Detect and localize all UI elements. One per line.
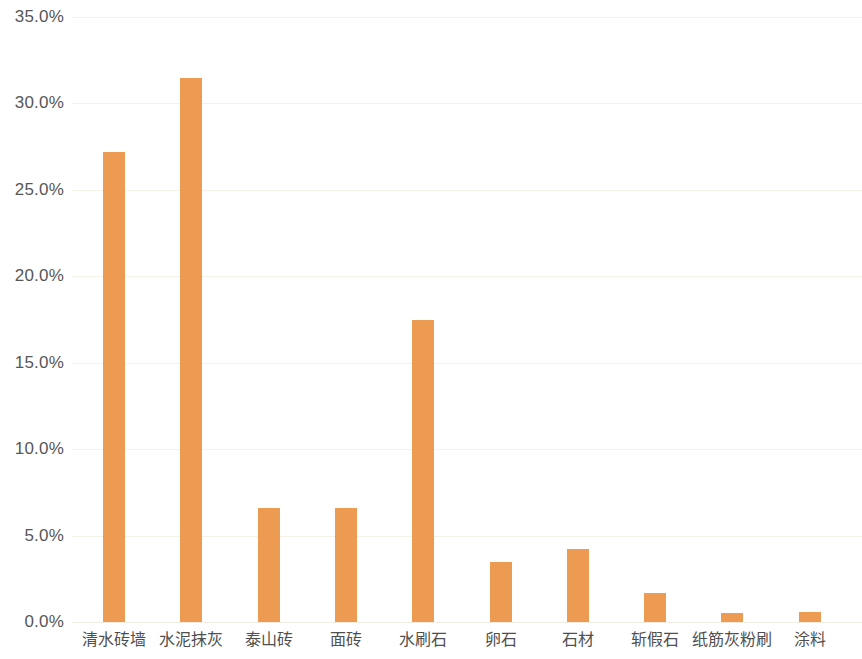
y-tick-label: 15.0% <box>15 353 64 373</box>
bar[interactable] <box>103 152 125 622</box>
bar[interactable] <box>567 549 589 622</box>
y-tick-label: 5.0% <box>24 526 64 546</box>
y-tick-label: 20.0% <box>15 266 64 286</box>
x-tick-label: 水泥抹灰 <box>159 631 223 649</box>
bar[interactable] <box>721 613 743 622</box>
bar[interactable] <box>799 612 821 622</box>
x-tick-label: 泰山砖 <box>245 631 293 649</box>
x-tick-label: 面砖 <box>330 631 362 649</box>
x-tick-label: 斩假石 <box>631 631 679 649</box>
bar[interactable] <box>490 562 512 623</box>
x-tick-label: 卵石 <box>485 631 517 649</box>
x-axis: 清水砖墙水泥抹灰泰山砖面砖水刷石卵石石材斩假石纸筋灰粉刷涂料 <box>72 622 862 659</box>
y-axis: 0.0% 5.0% 10.0% 15.0% 20.0% 25.0% 30.0% … <box>0 0 72 659</box>
bar[interactable] <box>644 593 666 622</box>
x-tick-label: 水刷石 <box>399 631 447 649</box>
x-tick-label: 涂料 <box>794 631 826 649</box>
plot-area: 清水砖墙水泥抹灰泰山砖面砖水刷石卵石石材斩假石纸筋灰粉刷涂料 <box>72 0 862 659</box>
y-tick-label: 35.0% <box>15 7 64 27</box>
y-tick-label: 10.0% <box>15 439 64 459</box>
y-tick-label: 0.0% <box>24 612 64 632</box>
bar[interactable] <box>258 508 280 622</box>
bar-chart: 0.0% 5.0% 10.0% 15.0% 20.0% 25.0% 30.0% … <box>0 0 862 659</box>
x-tick-label: 清水砖墙 <box>82 631 146 649</box>
y-tick-label: 25.0% <box>15 180 64 200</box>
x-tick-label: 石材 <box>562 631 594 649</box>
bar[interactable] <box>412 320 434 623</box>
bar[interactable] <box>335 508 357 622</box>
x-tick-label: 纸筋灰粉刷 <box>692 631 772 649</box>
bars <box>72 0 862 659</box>
y-tick-label: 30.0% <box>15 93 64 113</box>
bar[interactable] <box>180 78 202 623</box>
